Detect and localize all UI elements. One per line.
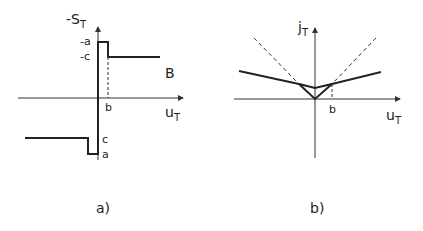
tick-neg-a: -a — [80, 35, 91, 48]
tick-a: a — [102, 148, 109, 161]
curve-label-b: B — [165, 65, 175, 81]
tick-b: b — [105, 101, 112, 114]
y-axis-label: jT — [297, 19, 309, 38]
tick-b: b — [329, 103, 336, 116]
x-axis-label: uT — [386, 107, 402, 126]
caption-b: b) — [310, 200, 324, 216]
panel-b: jT b uT b) — [234, 19, 402, 216]
dashed-left — [254, 38, 299, 84]
tick-c: c — [102, 133, 108, 146]
tick-neg-c: -c — [80, 50, 90, 63]
figure: -ST -a -c c a b B uT a) jT b uT b) — [0, 0, 423, 231]
caption-a: a) — [96, 200, 110, 216]
upper-curve — [239, 71, 381, 88]
x-axis-label: uT — [165, 104, 181, 123]
panel-a: -ST -a -c c a b B uT a) — [18, 11, 183, 216]
y-axis-label: -ST — [66, 11, 87, 30]
dashed-right — [332, 38, 376, 84]
